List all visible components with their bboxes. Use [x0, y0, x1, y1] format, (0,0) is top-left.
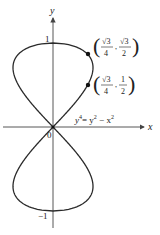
lemniscate-figure: y x 0 1 −1 ( √3 4 , √3 2 ) ( √3 4 , 1 2 … — [0, 0, 160, 235]
svg-text:,: , — [115, 42, 117, 51]
svg-text:4: 4 — [104, 49, 108, 58]
point-label-1: ( √3 4 , √3 2 ) — [93, 33, 139, 58]
svg-text:2: 2 — [121, 87, 125, 96]
y-tick-neg1: −1 — [38, 211, 48, 221]
svg-text:1: 1 — [121, 75, 125, 84]
origin-label: 0 — [47, 130, 52, 140]
svg-text:(: ( — [93, 33, 100, 58]
svg-text:(: ( — [93, 71, 100, 96]
svg-text:y4= y2 − x2: y4= y2 − x2 — [74, 114, 114, 125]
svg-text:4: 4 — [104, 87, 108, 96]
svg-text:,: , — [115, 80, 117, 89]
y-tick-1: 1 — [45, 34, 50, 44]
svg-text:): ) — [128, 71, 135, 96]
y-axis-label: y — [49, 5, 55, 16]
svg-text:2: 2 — [122, 49, 126, 58]
svg-text:√3: √3 — [120, 37, 128, 46]
equation-label: y4= y2 − x2 — [74, 114, 114, 125]
svg-text:√3: √3 — [102, 37, 110, 46]
origin-point — [51, 125, 54, 128]
svg-text:): ) — [132, 33, 139, 58]
x-axis-label: x — [147, 121, 153, 132]
svg-text:√3: √3 — [102, 75, 110, 84]
point-sqrt3-4-1-2 — [86, 83, 90, 87]
point-label-2: ( √3 4 , 1 2 ) — [93, 71, 135, 96]
point-sqrt3-4-sqrt3-2 — [86, 52, 90, 56]
